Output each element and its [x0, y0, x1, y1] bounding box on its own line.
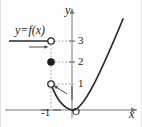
y-axis-label: y: [65, 4, 70, 16]
x-tick-label-minus1: -1: [41, 107, 50, 118]
function-label: y=f(x): [15, 24, 45, 36]
function-graph-figure: y=f(x) y x O 3 2 1 -1: [0, 0, 142, 127]
parabola-branch: [51, 19, 123, 110]
ray-direction-arrow: [29, 45, 49, 48]
origin-label: O: [72, 106, 80, 117]
y-tick-label-2: 2: [78, 56, 84, 67]
x-axis-label: x: [129, 108, 134, 120]
open-circle-top-marker: [48, 38, 54, 44]
y-tick-label-1: 1: [78, 78, 84, 89]
branch-endpoint-arrow: [54, 86, 67, 94]
open-circle-lower-marker: [48, 81, 54, 87]
filled-dot-marker: [48, 59, 54, 65]
y-tick-label-3: 3: [78, 35, 84, 46]
y-axis: [70, 8, 75, 118]
